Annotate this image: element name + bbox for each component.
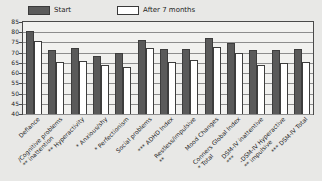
legend-label-after: After 7 months [143, 7, 195, 14]
bar-after[interactable] [146, 48, 154, 114]
bar-start[interactable] [249, 50, 257, 114]
bar-start[interactable] [93, 56, 101, 114]
legend-label-start: Start [54, 7, 71, 14]
bar-start[interactable] [205, 38, 213, 114]
x-axis-labels: DefianceCognitive problems/inattention *… [23, 116, 313, 180]
bar-after[interactable] [302, 62, 310, 114]
y-axis-tick-label: 80 [11, 29, 19, 35]
bar-start[interactable] [138, 40, 146, 114]
bar-after[interactable] [123, 67, 131, 114]
y-axis-tick-label: 60 [11, 70, 19, 76]
bar-start[interactable] [26, 31, 34, 114]
y-axis-tick-label: 70 [11, 50, 19, 56]
bar-group [224, 22, 246, 114]
bar-group [90, 22, 112, 114]
bar-after[interactable] [257, 65, 265, 114]
bar-group [23, 22, 45, 114]
bar-group [68, 22, 90, 114]
bar-group [45, 22, 67, 114]
bar-after[interactable] [235, 53, 243, 114]
bar-group [157, 22, 179, 114]
bar-start[interactable] [182, 49, 190, 114]
legend-swatch-after-icon [117, 6, 139, 15]
y-axis-tick-label: 50 [11, 91, 19, 97]
bar-after[interactable] [79, 61, 87, 114]
bar-after[interactable] [56, 62, 64, 114]
bar-after[interactable] [190, 60, 198, 114]
bar-group [112, 22, 134, 114]
legend-swatch-start-icon [28, 6, 50, 15]
bar-start[interactable] [272, 50, 280, 114]
bar-chart-figure: Start After 7 months 8580757065605550454… [0, 0, 322, 181]
y-axis-tick-label: 65 [11, 60, 19, 66]
legend-entry-start: Start [28, 6, 71, 15]
bar-group [291, 22, 313, 114]
y-axis-tick-label: 85 [11, 19, 19, 25]
bar-group [268, 22, 290, 114]
bars-layer [23, 22, 313, 114]
y-axis-tick-label: 55 [11, 80, 19, 86]
y-axis-tick-label: 75 [11, 39, 19, 45]
bar-after[interactable] [34, 41, 42, 114]
bar-group [135, 22, 157, 114]
bar-start[interactable] [227, 43, 235, 114]
y-axis-tick-label: 40 [11, 111, 19, 117]
y-axis: 85807570656055504540 [0, 21, 22, 115]
bar-after[interactable] [280, 63, 288, 114]
bar-group [179, 22, 201, 114]
bar-start[interactable] [294, 49, 302, 114]
bar-after[interactable] [213, 47, 221, 114]
chart-legend: Start After 7 months [28, 3, 195, 17]
bar-start[interactable] [48, 50, 56, 114]
bar-group [202, 22, 224, 114]
bar-after[interactable] [168, 62, 176, 114]
bar-start[interactable] [71, 48, 79, 114]
legend-entry-after: After 7 months [117, 6, 195, 15]
bar-start[interactable] [115, 53, 123, 114]
y-axis-tick-label: 45 [11, 101, 19, 107]
bar-start[interactable] [160, 49, 168, 114]
bar-group [246, 22, 268, 114]
bar-after[interactable] [101, 65, 109, 114]
